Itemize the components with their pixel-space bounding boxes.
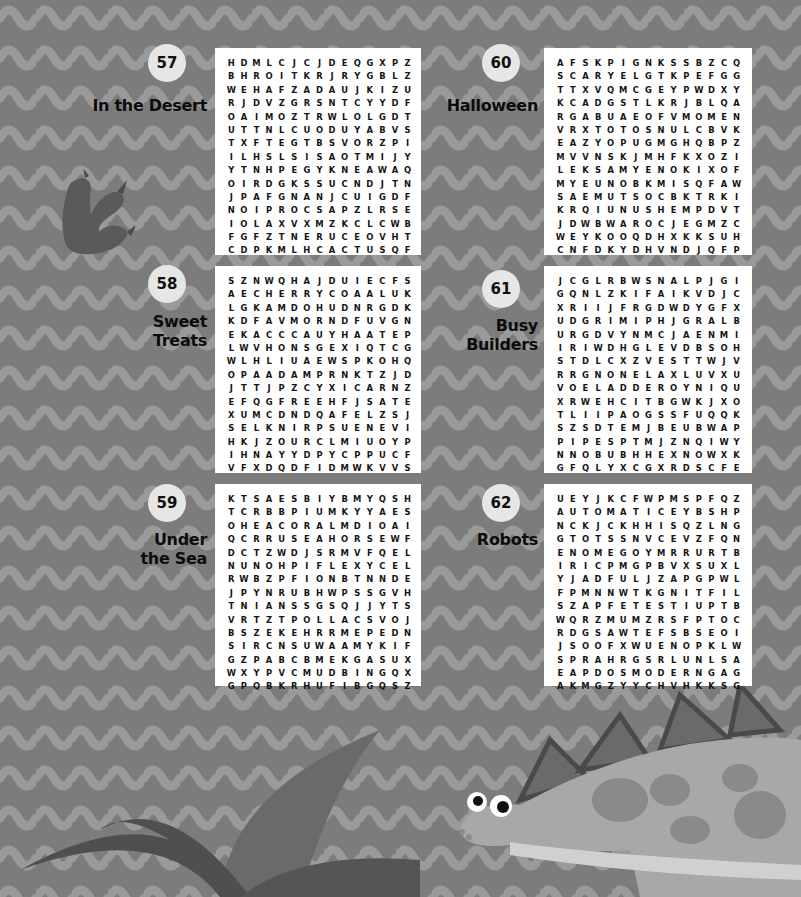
grid-letter: H bbox=[301, 627, 314, 640]
grid-letter: A bbox=[376, 506, 389, 519]
grid-letter: Y bbox=[680, 382, 693, 395]
grid-letter: V bbox=[288, 218, 301, 231]
grid-letter: G bbox=[567, 111, 580, 124]
grid-letter: C bbox=[288, 329, 301, 342]
grid-letter: S bbox=[705, 342, 718, 355]
grid-letter: P bbox=[579, 667, 592, 680]
grid-letter: S bbox=[326, 600, 339, 613]
grid-letter: B bbox=[376, 70, 389, 83]
grid-letter: M bbox=[680, 204, 693, 217]
grid-letter: S bbox=[655, 600, 668, 613]
grid-letter: S bbox=[364, 614, 377, 627]
grid-letter: P bbox=[401, 436, 414, 449]
grid-letter: V bbox=[275, 667, 288, 680]
grid-letter: J bbox=[263, 382, 276, 395]
grid-letter: H bbox=[313, 302, 326, 315]
grid-letter: J bbox=[364, 600, 377, 613]
grid-letter: L bbox=[263, 355, 276, 368]
grid-letter: L bbox=[263, 57, 276, 70]
grid-letter: K bbox=[730, 449, 743, 462]
grid-letter: E bbox=[693, 70, 706, 83]
grid-letter: S bbox=[313, 204, 326, 217]
grid-letter: P bbox=[579, 436, 592, 449]
grid-letter: J bbox=[401, 614, 414, 627]
grid-letter: J bbox=[604, 302, 617, 315]
grid-letter: S bbox=[326, 422, 339, 435]
grid-letter: L bbox=[592, 355, 605, 368]
grid-letter: G bbox=[630, 57, 643, 70]
grid-letter: Z bbox=[567, 422, 580, 435]
grid-letter: T bbox=[667, 600, 680, 613]
grid-letter: A bbox=[579, 600, 592, 613]
grid-letter: E bbox=[667, 667, 680, 680]
grid-letter: L bbox=[225, 302, 238, 315]
grid-letter: T bbox=[567, 533, 580, 546]
grid-letter: M bbox=[630, 422, 643, 435]
grid-letter: I bbox=[655, 520, 668, 533]
grid-letter: Y bbox=[389, 436, 402, 449]
grid-letter: E bbox=[667, 204, 680, 217]
grid-letter: D bbox=[592, 244, 605, 257]
grid-letter: I bbox=[250, 204, 263, 217]
grid-letter: I bbox=[642, 506, 655, 519]
grid-letter: A bbox=[554, 506, 567, 519]
grid-letter: N bbox=[554, 520, 567, 533]
grid-letter: H bbox=[718, 506, 731, 519]
grid-letter: M bbox=[288, 315, 301, 328]
grid-letter: R bbox=[301, 520, 314, 533]
grid-letter: V bbox=[225, 462, 238, 475]
grid-letter: H bbox=[238, 449, 251, 462]
grid-letter: A bbox=[376, 396, 389, 409]
grid-letter: C bbox=[730, 614, 743, 627]
grid-letter: D bbox=[313, 84, 326, 97]
grid-letter: T bbox=[630, 600, 643, 613]
grid-letter: J bbox=[389, 369, 402, 382]
grid-letter: S bbox=[642, 204, 655, 217]
grid-letter: W bbox=[718, 436, 731, 449]
grid-letter: N bbox=[655, 164, 668, 177]
grid-letter: W bbox=[705, 422, 718, 435]
grid-letter: I bbox=[364, 520, 377, 533]
grid-letter: Q bbox=[376, 547, 389, 560]
grid-letter: W bbox=[630, 640, 643, 653]
grid-letter: P bbox=[655, 493, 668, 506]
grid-letter: P bbox=[680, 573, 693, 586]
grid-letter: M bbox=[250, 57, 263, 70]
grid-letter: S bbox=[288, 151, 301, 164]
grid-letter: W bbox=[604, 218, 617, 231]
grid-letter: R bbox=[301, 97, 314, 110]
grid-letter: U bbox=[275, 533, 288, 546]
grid-letter: J bbox=[655, 436, 668, 449]
grid-letter: E bbox=[655, 355, 668, 368]
grid-letter: W bbox=[238, 342, 251, 355]
grid-letter: E bbox=[567, 231, 580, 244]
grid-letter: Y bbox=[364, 640, 377, 653]
grid-letter: L bbox=[642, 97, 655, 110]
grid-letter: K bbox=[617, 520, 630, 533]
grid-letter: G bbox=[376, 302, 389, 315]
grid-letter: I bbox=[630, 288, 643, 301]
grid-letter: O bbox=[351, 111, 364, 124]
grid-letter: H bbox=[730, 342, 743, 355]
grid-letter: E bbox=[389, 329, 402, 342]
grid-letter: I bbox=[592, 204, 605, 217]
grid-letter: H bbox=[642, 520, 655, 533]
grid-letter: R bbox=[617, 654, 630, 667]
grid-letter: D bbox=[567, 627, 580, 640]
grid-letter: O bbox=[301, 315, 314, 328]
grid-letter: D bbox=[275, 369, 288, 382]
grid-letter: I bbox=[579, 560, 592, 573]
grid-letter: U bbox=[730, 369, 743, 382]
grid-letter: T bbox=[250, 614, 263, 627]
grid-letter: J bbox=[642, 422, 655, 435]
grid-letter: R bbox=[579, 654, 592, 667]
grid-letter: E bbox=[238, 288, 251, 301]
grid-letter: I bbox=[301, 573, 314, 586]
grid-letter: C bbox=[655, 218, 668, 231]
grid-letter: O bbox=[288, 520, 301, 533]
grid-letter: C bbox=[351, 97, 364, 110]
grid-letter: G bbox=[705, 302, 718, 315]
grid-letter: Y bbox=[326, 329, 339, 342]
grid-letter: J bbox=[667, 329, 680, 342]
grid-letter: G bbox=[351, 654, 364, 667]
